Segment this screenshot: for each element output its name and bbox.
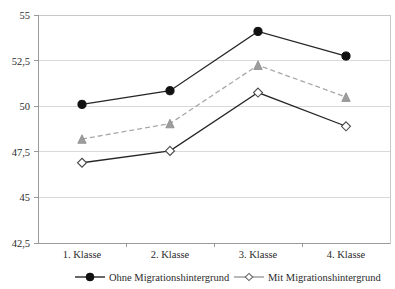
legend-item-mit[interactable]: Mit Migrationshintergrund bbox=[234, 272, 381, 283]
line-chart: 55 52,5 50 47,5 45 42,5 bbox=[0, 0, 395, 289]
open-diamond-icon bbox=[245, 273, 253, 280]
y-axis-labels: 55 52,5 50 47,5 45 42,5 bbox=[12, 10, 30, 249]
chart-figure: 55 52,5 50 47,5 45 42,5 bbox=[0, 0, 395, 289]
y-tick-label: 50 bbox=[20, 101, 31, 112]
y-tick-label: 55 bbox=[20, 10, 31, 21]
y-tick-marks bbox=[34, 15, 38, 243]
filled-circle-icon bbox=[86, 273, 94, 281]
y-tick-label: 42,5 bbox=[12, 238, 30, 249]
plot-background bbox=[38, 15, 390, 243]
y-tick-label: 45 bbox=[20, 192, 31, 203]
data-point-marker bbox=[342, 52, 350, 60]
x-tick-label-1-klasse: 1. Klasse bbox=[63, 249, 102, 260]
y-tick-label: 47,5 bbox=[12, 147, 30, 158]
x-tick-marks bbox=[126, 243, 302, 247]
legend-item-ohne[interactable]: Ohne Migrationshintergrund bbox=[75, 272, 230, 283]
y-tick-label: 52,5 bbox=[12, 56, 30, 67]
x-tick-label-2-klasse: 2. Klasse bbox=[151, 249, 190, 260]
legend-label-mit: Mit Migrationshintergrund bbox=[268, 272, 381, 283]
data-point-marker bbox=[254, 27, 262, 35]
x-axis-labels: 1. Klasse 2. Klasse 3. Klasse 4. Klasse bbox=[63, 249, 366, 260]
x-tick-label-4-klasse: 4. Klasse bbox=[327, 249, 366, 260]
data-point-marker bbox=[78, 100, 86, 108]
data-point-marker bbox=[166, 87, 174, 95]
chart-legend: Ohne Migrationshintergrund Mit Migration… bbox=[75, 272, 381, 283]
x-tick-label-3-klasse: 3. Klasse bbox=[239, 249, 278, 260]
legend-label-ohne: Ohne Migrationshintergrund bbox=[109, 272, 230, 283]
